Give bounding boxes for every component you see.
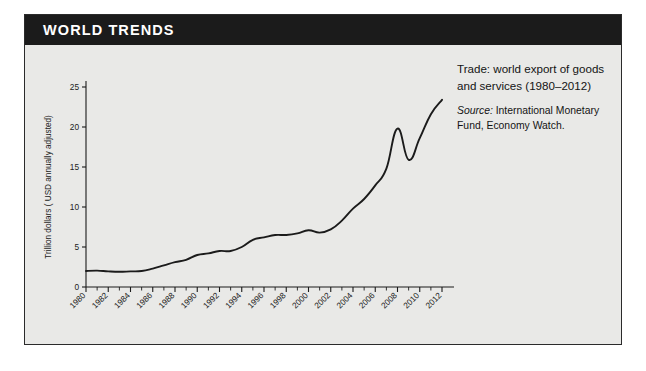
svg-text:0: 0 (74, 282, 79, 292)
tick-labels-group: 0510152025198019821984198619881990199219… (67, 82, 443, 310)
svg-text:1990: 1990 (179, 290, 199, 310)
svg-text:5: 5 (74, 242, 79, 252)
svg-text:2000: 2000 (290, 290, 310, 310)
svg-text:20: 20 (70, 122, 80, 132)
svg-text:1980: 1980 (67, 290, 87, 310)
svg-text:Trillion dollars ( USD annuall: Trillion dollars ( USD annually adjusted… (44, 115, 53, 259)
svg-text:10: 10 (70, 202, 80, 212)
caption-source-label: Source: (457, 105, 493, 116)
svg-text:1982: 1982 (90, 290, 110, 310)
svg-text:2012: 2012 (423, 290, 443, 310)
axes-group (86, 81, 454, 287)
svg-text:1984: 1984 (112, 290, 132, 310)
figure-panel: WORLD TRENDS 051015202519801982198419861… (24, 14, 622, 345)
svg-text:25: 25 (70, 82, 80, 92)
caption-title: Trade: world export of goods and service… (457, 61, 617, 94)
caption-source: Source: International Monetary Fund, Eco… (457, 103, 617, 133)
title-bar: WORLD TRENDS (25, 15, 621, 45)
svg-text:1992: 1992 (201, 290, 221, 310)
caption-block: Trade: world export of goods and service… (457, 61, 617, 133)
svg-text:15: 15 (70, 162, 80, 172)
svg-text:1994: 1994 (223, 290, 243, 310)
svg-text:2004: 2004 (334, 290, 354, 310)
svg-text:1988: 1988 (156, 290, 176, 310)
svg-text:2002: 2002 (312, 290, 332, 310)
svg-text:2006: 2006 (357, 290, 377, 310)
ticks-group (82, 87, 442, 292)
y-axis-title: Trillion dollars ( USD annually adjusted… (44, 115, 53, 259)
data-series-line (86, 100, 442, 272)
svg-text:2010: 2010 (401, 290, 421, 310)
svg-text:1998: 1998 (268, 290, 288, 310)
svg-text:1986: 1986 (134, 290, 154, 310)
svg-text:1996: 1996 (245, 290, 265, 310)
page-title: WORLD TRENDS (43, 22, 175, 38)
svg-text:2008: 2008 (379, 290, 399, 310)
